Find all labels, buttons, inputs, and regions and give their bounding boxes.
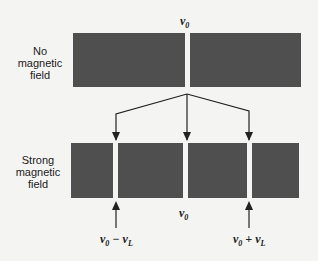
nu0-minus-nuL-label: ν0 − νL: [100, 232, 133, 248]
nu0-plus-nuL-label: ν0 + νL: [233, 232, 265, 248]
nu0-bottom-label: ν0: [179, 206, 188, 222]
arrows: [0, 0, 318, 261]
